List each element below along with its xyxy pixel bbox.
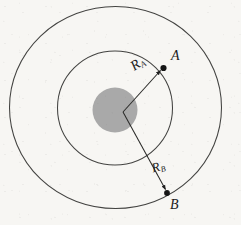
orbit-diagram-figure: RA RB A B — [0, 0, 241, 225]
radius-a-vector — [123, 71, 161, 113]
orbit-diagram-canvas — [0, 0, 241, 225]
point-b-marker — [164, 190, 170, 196]
point-b-label: B — [170, 198, 179, 212]
point-a-label: A — [171, 49, 180, 63]
point-a-marker — [160, 65, 166, 71]
radius-b-vector — [123, 112, 166, 190]
